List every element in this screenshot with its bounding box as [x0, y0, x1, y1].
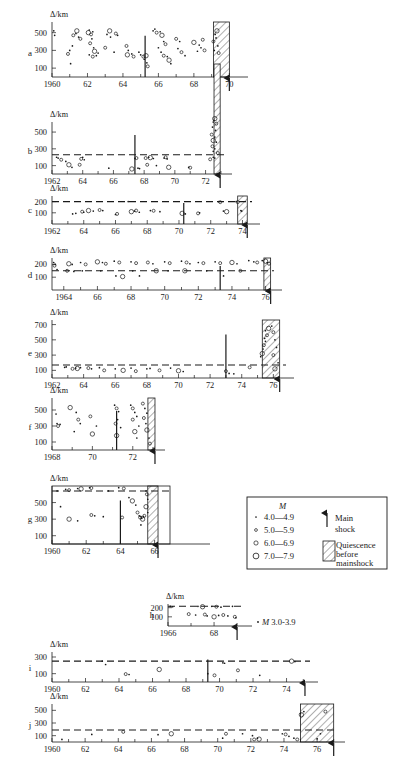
y-axis-title-b: Δ/km: [50, 110, 69, 119]
x-tick-label-b-4: 70: [171, 177, 179, 186]
data-point: [153, 158, 155, 160]
x-tick-label-j-1: 62: [81, 745, 89, 754]
y-axis-title-i: Δ/km: [50, 640, 69, 649]
panel-letter-j: j: [28, 720, 32, 730]
x-tick-label-i-6: 72: [249, 685, 257, 694]
data-point: [164, 261, 166, 263]
data-point: [159, 211, 161, 213]
data-point: [53, 30, 55, 32]
data-point: [104, 46, 107, 49]
data-point: [93, 47, 95, 49]
x-tick-label-j-6: 72: [247, 745, 255, 754]
data-point: [83, 159, 85, 161]
data-point: [253, 261, 255, 263]
x-tick-label-d-6: 76: [261, 293, 269, 302]
data-point: [65, 161, 67, 163]
data-point: [200, 47, 202, 49]
data-point: [68, 405, 72, 409]
panel-letter-g: g: [28, 514, 33, 524]
data-point: [219, 262, 222, 265]
data-point: [176, 369, 180, 373]
panel-i: iΔ/km100300196062646668707274: [29, 640, 318, 696]
data-point: [125, 44, 128, 47]
data-point: [94, 515, 96, 517]
data-point: [215, 130, 217, 132]
data-point: [146, 261, 149, 264]
data-point: [197, 605, 199, 607]
data-point: [143, 514, 146, 517]
x-tick-label-d-1: 66: [93, 293, 101, 302]
data-point: [134, 370, 137, 373]
x-tick-label-d-0: 1964: [55, 293, 73, 302]
y-tick-label-d-1: 200: [34, 260, 47, 269]
data-point: [214, 136, 216, 138]
y-tick-label-d-0: 100: [34, 273, 47, 282]
data-point: [213, 674, 216, 677]
data-point: [169, 605, 171, 607]
y-tick-label-i-0: 100: [34, 670, 47, 679]
data-point: [102, 210, 104, 212]
data-point: [228, 373, 230, 375]
y-tick-label-e-3: 700: [34, 321, 47, 330]
x-tick-label-j-4: 68: [180, 745, 188, 754]
data-point: [91, 55, 94, 58]
data-point: [207, 673, 209, 675]
data-point: [67, 163, 71, 167]
data-point: [163, 41, 165, 43]
data-point: [130, 167, 134, 171]
data-point: [92, 210, 94, 212]
data-point: [289, 659, 293, 663]
data-point: [83, 211, 85, 213]
seismicity-figure: aΔ/km10030050019606264666870bΔ/km1003005…: [0, 0, 400, 762]
data-point: [129, 209, 133, 213]
data-point: [167, 165, 171, 169]
data-point: [136, 416, 138, 418]
data-point: [222, 614, 225, 617]
data-point: [224, 732, 227, 735]
panel-e: eΔ/km100300500700196264666870727476: [28, 308, 294, 392]
x-tick-label-c-0: 1962: [44, 227, 61, 236]
data-point: [56, 269, 58, 271]
y-tick-label-f-1: 300: [34, 422, 47, 431]
legend-magnitude-header: M: [278, 501, 287, 511]
data-point: [146, 163, 149, 166]
data-point: [118, 411, 120, 413]
y-tick-label-h-1: 200: [150, 604, 163, 613]
x-tick-label-e-6: 74: [238, 381, 247, 390]
data-point: [144, 408, 146, 410]
data-point: [130, 261, 132, 263]
data-point: [212, 126, 214, 128]
data-point: [71, 166, 73, 168]
y-axis-title-d: Δ/km: [50, 246, 69, 255]
data-point: [147, 512, 149, 514]
y-tick-label-c-0: 100: [34, 209, 47, 218]
x-tick-label-c-3: 68: [143, 227, 151, 236]
x-tick-label-e-3: 68: [143, 381, 151, 390]
data-point: [64, 366, 66, 368]
panel-d: dΔ/km1002001964666870727476: [28, 246, 282, 304]
data-point: [144, 157, 147, 160]
data-point: [113, 51, 115, 53]
data-point: [88, 54, 90, 56]
data-point: [281, 733, 283, 735]
magnitude-dot-icon: [257, 621, 259, 623]
data-point: [203, 613, 206, 616]
data-point: [69, 50, 71, 52]
y-tick-label-j-1: 300: [34, 719, 47, 728]
y-tick-label-a-2: 500: [34, 29, 47, 38]
data-point: [117, 419, 119, 421]
data-point: [152, 209, 155, 212]
y-axis-title-a: Δ/km: [50, 10, 69, 19]
data-point: [222, 737, 224, 739]
data-point: [114, 404, 116, 406]
x-tick-label-b-5: 72: [201, 177, 209, 186]
data-point: [223, 210, 225, 212]
y-tick-label-g-1: 300: [34, 515, 47, 524]
data-point: [184, 213, 186, 215]
x-tick-label-j-0: 1960: [44, 745, 61, 754]
data-point: [136, 437, 138, 439]
data-point: [132, 55, 135, 58]
data-point: [136, 511, 139, 514]
data-point: [71, 367, 74, 370]
data-point: [82, 156, 84, 158]
